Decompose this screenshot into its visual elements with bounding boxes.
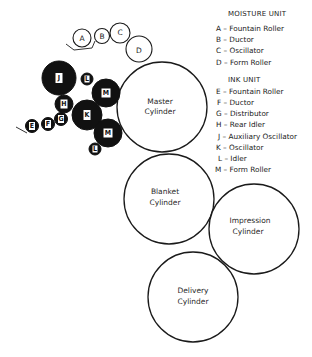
legend-moisture-unit: MOISTURE UNIT A – Fountain Roller B – Du… — [216, 10, 287, 67]
roller-c: C — [110, 23, 130, 43]
roller-h-label: H — [61, 100, 66, 108]
roller-f: F — [42, 118, 55, 131]
impression-cylinder-label-1: Impression — [229, 216, 270, 225]
roller-m-top-label: M — [103, 89, 109, 97]
roller-b: B — [95, 29, 110, 44]
roller-e-label: E — [30, 122, 34, 130]
legend-ink-unit: INK UNIT E – Fountain Roller F – Ductor … — [215, 76, 297, 174]
legend-item-g: G – Distributor — [216, 109, 269, 118]
roller-g-label: G — [58, 115, 63, 123]
roller-m-bottom: M — [94, 119, 122, 147]
roller-d: D — [126, 36, 152, 62]
legend-item-j: J – Auxiliary Oscillator — [217, 132, 297, 141]
roller-a: A — [73, 29, 91, 47]
legend-item-m: M – Form Roller — [215, 165, 271, 174]
legend-item-b: B – Ductor — [216, 35, 254, 44]
roller-h: H — [55, 95, 73, 113]
roller-c-label: C — [117, 28, 122, 37]
blanket-cylinder-label-2: Cylinder — [149, 198, 181, 207]
legend-item-k: K – Oscillator — [216, 143, 264, 152]
master-cylinder-label-1: Master — [147, 97, 174, 106]
roller-j: J — [42, 61, 76, 95]
roller-m-top: M — [92, 79, 120, 107]
delivery-cylinder: Delivery Cylinder — [148, 252, 238, 342]
legend-item-d: D – Form Roller — [216, 58, 271, 67]
roller-d-label: D — [136, 46, 142, 55]
roller-l-top-label: L — [85, 75, 89, 83]
roller-b-label: B — [99, 32, 104, 41]
master-cylinder: Master Cylinder — [117, 62, 207, 152]
roller-e: E — [26, 120, 39, 133]
offset-press-roller-diagram: Master Cylinder Blanket Cylinder Impress… — [0, 0, 312, 357]
legend-item-f: F – Ductor — [217, 98, 254, 107]
legend-ink-title: INK UNIT — [228, 76, 261, 84]
impression-cylinder: Impression Cylinder — [209, 184, 299, 274]
legend-moisture-title: MOISTURE UNIT — [228, 10, 287, 18]
delivery-cylinder-label-2: Cylinder — [177, 297, 209, 306]
master-cylinder-label-2: Cylinder — [144, 107, 176, 116]
roller-f-label: F — [46, 120, 50, 128]
roller-l-top: L — [81, 73, 93, 85]
roller-m-bottom-label: M — [105, 129, 111, 137]
delivery-cylinder-label-1: Delivery — [177, 286, 209, 295]
legend-item-a: A – Fountain Roller — [216, 24, 284, 33]
legend-item-h: H – Rear Idler — [216, 120, 265, 129]
roller-j-label: J — [57, 74, 60, 82]
legend-item-c: C – Oscillator — [216, 46, 264, 55]
legend-item-e: E – Fountain Roller — [216, 87, 284, 96]
legend-item-l: L – Idler — [218, 154, 247, 163]
roller-a-label: A — [79, 34, 85, 43]
roller-g: G — [55, 113, 68, 126]
roller-l-bottom: L — [89, 143, 101, 155]
impression-cylinder-label-2: Cylinder — [232, 227, 264, 236]
blanket-cylinder-label-1: Blanket — [151, 187, 179, 196]
roller-l-bottom-label: L — [93, 145, 97, 153]
blanket-cylinder: Blanket Cylinder — [124, 154, 214, 244]
